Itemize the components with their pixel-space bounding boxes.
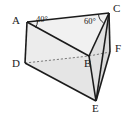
geometry-figure: A B C D E F 40° 60° (0, 0, 128, 117)
angle-label-60: 60° (84, 17, 96, 26)
edge-c-f (109, 13, 110, 52)
vertex-label-d: D (12, 58, 20, 69)
vertex-label-a: A (12, 15, 20, 26)
angle-label-40: 40° (36, 15, 48, 24)
vertex-label-b: B (84, 58, 91, 69)
vertex-label-c: C (113, 3, 120, 14)
vertex-label-e: E (92, 103, 99, 114)
vertex-label-f: F (115, 43, 121, 54)
